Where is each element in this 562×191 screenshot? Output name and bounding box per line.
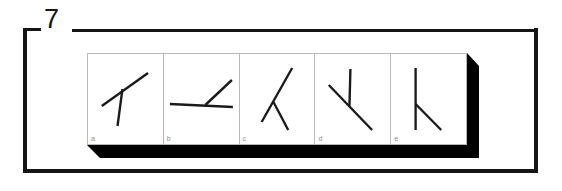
- short-stroke: [205, 80, 232, 105]
- panel-letter-label: b: [167, 135, 171, 143]
- figure-number-label: 7: [44, 6, 59, 33]
- frame-border-right: [534, 28, 538, 173]
- angle-stimulus-drawing: [315, 54, 390, 144]
- angle-stimulus-drawing: [391, 54, 466, 144]
- panel-b[interactable]: b: [164, 54, 240, 144]
- panel-letter-label: e: [394, 135, 398, 143]
- frame-border-bottom: [23, 169, 538, 173]
- angle-stimulus-drawing: [240, 54, 315, 144]
- panel-strip: abcde: [87, 53, 467, 145]
- frame-border-top-stub: [23, 28, 41, 31]
- panel-letter-label: a: [91, 135, 95, 143]
- panel-e[interactable]: e: [391, 54, 466, 144]
- panel-letter-label: d: [318, 135, 322, 143]
- angle-stimulus-drawing: [88, 54, 163, 144]
- panel-a[interactable]: a: [88, 54, 164, 144]
- panel-d[interactable]: d: [315, 54, 391, 144]
- panel-c[interactable]: c: [240, 54, 316, 144]
- panel-strip-wrapper: abcde: [87, 53, 479, 158]
- long-stroke: [261, 68, 292, 122]
- long-stroke: [170, 104, 233, 107]
- long-stroke: [102, 73, 148, 106]
- short-stroke: [416, 104, 442, 130]
- frame-border-top: [72, 29, 538, 32]
- panel-letter-label: c: [243, 135, 247, 143]
- angle-stimulus-drawing: [164, 54, 239, 144]
- short-stroke: [350, 69, 351, 106]
- short-stroke: [273, 102, 288, 130]
- frame-border-left: [23, 28, 27, 173]
- figure-container: 7 abcde: [0, 0, 562, 191]
